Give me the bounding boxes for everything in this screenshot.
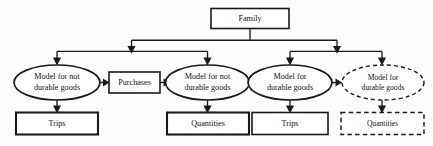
node-purchases[interactable]: Purchases xyxy=(109,72,160,93)
node-quantities-2[interactable]: Quantities xyxy=(341,113,424,135)
quantities-1-label: Quantities xyxy=(191,119,225,128)
node-quantities-1[interactable]: Quantities xyxy=(167,113,249,135)
node-trips-1[interactable]: Trips xyxy=(16,113,98,135)
node-model-durable-1[interactable]: Model for durable goods xyxy=(248,65,332,100)
node-trips-2[interactable]: Trips xyxy=(252,113,328,135)
model-durable-1-label-line2: durable goods xyxy=(267,83,313,92)
node-family[interactable]: Family xyxy=(211,9,289,29)
family-label: Family xyxy=(238,14,262,23)
model-nondurable-1-label-line1: Model for not xyxy=(34,72,80,81)
node-model-nondurable-1[interactable]: Model for not durable goods xyxy=(14,65,100,100)
purchases-label: Purchases xyxy=(118,78,151,87)
node-model-durable-2[interactable]: Model for durable goods xyxy=(342,65,424,100)
node-model-nondurable-2[interactable]: Model for not durable goods xyxy=(166,65,250,100)
model-durable-2-label-line2: durable goods xyxy=(362,83,405,92)
flowchart-canvas: Family Model for not durable goods Purch… xyxy=(0,0,433,146)
arrowhead-model-durable-2 xyxy=(378,58,386,66)
flowchart-diagram: Family Model for not durable goods Purch… xyxy=(0,0,433,146)
model-nondurable-2-label-line2: durable goods xyxy=(184,83,230,92)
model-nondurable-2-label-line1: Model for not xyxy=(185,72,231,81)
trips-2-label: Trips xyxy=(282,119,299,128)
arrowhead-model-durable-2-in xyxy=(336,79,343,87)
quantities-2-label: Quantities xyxy=(367,119,398,128)
arrowhead-top-bus-right xyxy=(333,46,341,54)
model-nondurable-1-label-line2: durable goods xyxy=(34,83,80,92)
model-durable-1-label-line1: Model for xyxy=(274,72,307,81)
arrowhead-top-bus-left xyxy=(127,46,135,54)
model-durable-2-label-line1: Model for xyxy=(368,73,399,82)
trips-1-label: Trips xyxy=(49,119,66,128)
